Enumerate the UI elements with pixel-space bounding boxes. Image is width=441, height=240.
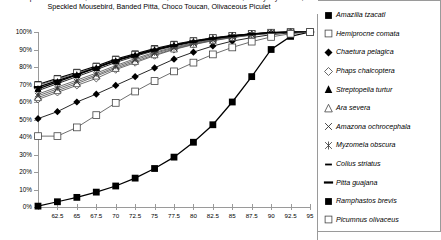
data-point-filled-square <box>35 203 42 210</box>
legend-item-0[interactable]: Amazilia tzacatl <box>322 6 440 25</box>
legend-label: Ara severa <box>336 104 370 112</box>
data-point-filled-square <box>112 183 119 190</box>
short-dash-icon <box>322 158 335 171</box>
legend-item-6[interactable]: Amazona ochrocephala <box>322 118 440 137</box>
data-point-filled-triangle <box>325 85 333 93</box>
data-point-filled-diamond <box>190 49 197 56</box>
legend-label: Ramphastos brevis <box>336 197 397 205</box>
chart-legend: Amazilia tzacatlHemiprocne comataChaetur… <box>318 0 441 232</box>
data-point-open-square <box>35 133 42 140</box>
legend-item-9[interactable]: Pitta guajana <box>322 173 440 192</box>
legend-label: Amazona ochrocephala <box>336 123 411 131</box>
data-point-open-square <box>151 78 158 85</box>
filled-diamond-icon <box>322 46 335 59</box>
data-point-short-dash <box>113 62 119 64</box>
data-point-open-square <box>54 133 61 140</box>
legend-item-1[interactable]: Hemiprocne comata <box>322 25 440 44</box>
data-point-open-square <box>190 59 197 66</box>
legend-item-2[interactable]: Chaetura pelagica <box>322 43 440 62</box>
data-point-long-dash <box>112 59 120 61</box>
data-point-filled-square <box>268 46 275 53</box>
data-point-long-dash <box>324 182 333 184</box>
open-triangle-icon <box>322 102 335 115</box>
data-point-open-square <box>287 30 294 37</box>
data-point-short-dash <box>54 83 60 85</box>
data-point-filled-diamond <box>151 64 158 71</box>
legend-label: Pitta guajana <box>336 179 377 187</box>
data-point-open-square <box>307 29 314 36</box>
legend-label: Phaps chalcoptera <box>336 67 395 75</box>
data-point-filled-square <box>209 121 216 128</box>
legend-item-3[interactable]: Phaps chalcoptera <box>322 62 440 81</box>
filled-triangle-icon <box>322 83 335 96</box>
open-square-icon <box>322 213 335 226</box>
data-point-filled-diamond <box>34 115 41 122</box>
data-point-short-dash <box>325 163 332 165</box>
data-point-filled-square <box>73 194 80 201</box>
chart-title: European Turtle-Dove, Chestnut-fronted M… <box>0 0 318 11</box>
legend-label: Hemiprocne comata <box>336 30 399 38</box>
legend-item-4[interactable]: Streptopelia turtur <box>322 80 440 99</box>
data-point-open-square <box>73 124 80 131</box>
data-point-filled-square <box>151 165 158 172</box>
cross-x-icon <box>322 120 335 133</box>
data-point-long-dash <box>248 33 256 35</box>
data-point-open-square <box>132 88 139 95</box>
data-point-filled-square <box>248 73 255 80</box>
data-point-long-dash <box>170 44 178 46</box>
data-point-filled-diamond <box>132 73 139 80</box>
data-point-open-square <box>93 112 100 119</box>
legend-label: Streptopelia turtur <box>336 86 392 94</box>
data-point-open-triangle <box>325 104 333 112</box>
data-point-filled-square <box>190 139 197 146</box>
data-point-filled-square <box>325 198 332 205</box>
legend-label: Amazilia tzacatl <box>336 11 385 19</box>
long-dash-icon <box>322 176 335 189</box>
legend-item-11[interactable]: Picumnus olivaceus <box>322 211 440 230</box>
data-point-open-square <box>209 51 216 58</box>
legend-item-5[interactable]: Ara severa <box>322 99 440 118</box>
data-point-long-dash <box>73 73 81 75</box>
data-point-long-dash <box>228 35 236 37</box>
data-point-cross-x <box>325 123 332 130</box>
legend-item-8[interactable]: Colius striatus <box>322 155 440 174</box>
data-point-filled-square <box>54 198 61 205</box>
data-point-open-diamond <box>325 67 333 75</box>
legend-item-7[interactable]: Myzomela obscura <box>322 136 440 155</box>
data-point-filled-square <box>132 175 139 182</box>
data-point-filled-diamond <box>325 48 333 56</box>
data-point-filled-diamond <box>112 82 119 89</box>
data-point-open-square <box>112 99 119 106</box>
data-point-long-dash <box>34 86 42 88</box>
legend-label: Myzomela obscura <box>336 141 396 149</box>
plot-panel: 0%10%20%30%40%50%60%70%80%90%100% 62.565… <box>0 14 318 240</box>
data-point-open-square <box>325 216 332 223</box>
data-point-short-dash <box>35 90 41 92</box>
open-square-icon <box>322 27 335 40</box>
filled-square-icon <box>322 9 335 22</box>
data-point-open-square <box>248 38 255 45</box>
data-point-open-square <box>171 68 178 75</box>
legend-label: Picumnus olivaceus <box>336 216 399 224</box>
data-point-filled-square <box>325 12 332 19</box>
open-diamond-icon <box>322 65 335 78</box>
data-point-open-square <box>229 44 236 51</box>
data-point-short-dash <box>74 76 80 78</box>
data-point-filled-diamond <box>170 56 177 63</box>
data-point-filled-diamond <box>73 98 80 105</box>
data-point-long-dash <box>150 49 158 51</box>
data-point-long-dash <box>189 40 197 42</box>
data-point-filled-diamond <box>93 91 100 98</box>
filled-square-icon <box>322 195 335 208</box>
data-point-long-dash <box>209 37 217 39</box>
data-point-open-square <box>268 34 275 41</box>
data-point-filled-square <box>229 99 236 106</box>
series-layer <box>0 14 318 240</box>
legend-label: Chaetura pelagica <box>336 48 394 56</box>
data-point-filled-square <box>93 189 100 196</box>
data-point-long-dash <box>131 54 139 56</box>
data-point-filled-square <box>171 154 178 161</box>
chart-root: European Turtle-Dove, Chestnut-fronted M… <box>0 0 441 240</box>
data-point-open-square <box>325 30 332 37</box>
legend-item-10[interactable]: Ramphastos brevis <box>322 192 440 211</box>
